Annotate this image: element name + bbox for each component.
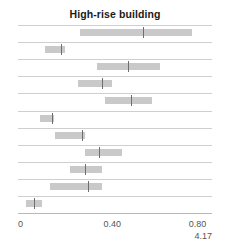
x-tick-label: 0.40 [92,219,132,230]
x-tick-label: 0.80 [189,219,207,230]
estimate-marker [131,95,132,106]
gridline [18,59,212,60]
gridline [18,76,212,77]
secondary-axis-label: 4.17 [194,231,212,242]
gridline [18,145,212,146]
interval-bar [55,132,85,139]
estimate-marker [143,27,144,38]
plot-area [0,0,230,252]
interval-bar [85,149,122,156]
interval-bar [70,166,102,173]
interval-bar [50,183,102,190]
estimate-marker [99,147,100,158]
interval-bar [78,80,112,87]
estimate-marker [128,61,129,72]
gridline [18,162,212,163]
estimate-marker [102,78,103,89]
gridline [18,25,212,26]
gridline [18,179,212,180]
interval-bar [45,46,65,53]
interval-bar [80,29,192,36]
interval-bar [105,97,152,104]
estimate-marker [82,130,83,141]
gridline [18,196,212,197]
gridline [18,111,212,112]
gridline [18,42,212,43]
estimate-marker [61,44,62,55]
estimate-marker [88,181,89,192]
gridline [18,128,212,129]
estimate-marker [85,164,86,175]
chart-container: High-rise building 00.400.80 4.17 [0,0,230,252]
estimate-marker [34,198,35,209]
x-tick-label: 0 [18,219,23,230]
gridline [18,93,212,94]
estimate-marker [52,113,53,124]
x-axis-line [18,213,212,214]
